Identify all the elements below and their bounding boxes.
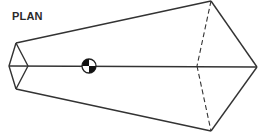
tip-lower-edge: [211, 67, 257, 131]
lower-edge: [16, 89, 211, 131]
hidden-line-lower: [197, 66, 211, 131]
center-of-gravity-icon: [82, 59, 96, 73]
upper-edge: [16, 1, 211, 43]
center-line: [9, 66, 257, 67]
tip-upper-edge: [211, 1, 257, 67]
hidden-line-upper: [197, 1, 211, 66]
plan-diagram: [0, 0, 259, 135]
